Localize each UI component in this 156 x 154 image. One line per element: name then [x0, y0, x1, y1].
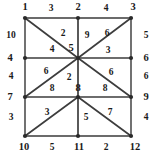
node-dot-11 — [76, 134, 80, 138]
node-label-3: 3 — [130, 2, 135, 12]
node-label-1: 1 — [22, 2, 27, 12]
edge-weight-8-11: 5 — [84, 112, 89, 122]
node-dot-7 — [23, 95, 27, 99]
edge-weight-4-5: 4 — [50, 44, 55, 54]
edge-weight-1-2: 3 — [49, 3, 54, 13]
edge-weight-6-9: 6 — [144, 71, 149, 81]
edge-layer — [25, 18, 131, 136]
edge-weight-1-5: 2 — [61, 28, 66, 38]
node-dot-12 — [129, 134, 133, 138]
edge-weight-5-8: 2 — [67, 72, 72, 82]
node-dot-1 — [23, 16, 27, 20]
node-dot-8 — [76, 95, 80, 99]
edge-weight-5-6: 3 — [106, 45, 111, 55]
node-dot-4 — [23, 56, 27, 60]
edge-weight-1-4: 10 — [6, 30, 16, 40]
node-label-7: 7 — [7, 92, 12, 102]
node-label-6: 6 — [143, 53, 148, 63]
node-label-8: 8 — [75, 83, 80, 93]
node-label-12: 12 — [130, 142, 141, 152]
edge-weight-4-7: 4 — [9, 71, 14, 81]
node-label-9: 9 — [143, 92, 148, 102]
edge-weight-3-6: 5 — [144, 30, 149, 40]
edge-weight-11-12: 2 — [104, 142, 109, 152]
node-dot-9 — [129, 95, 133, 99]
node-label-4: 4 — [7, 53, 12, 63]
node-label-5: 5 — [68, 43, 73, 53]
edge-weight-8-9: 8 — [103, 83, 108, 93]
edge-weight-10-8: 3 — [45, 107, 50, 117]
edge-weight-7-8: 8 — [50, 83, 55, 93]
graph-diagram: 344388521043925564266637123456789101112 — [0, 0, 156, 154]
edge-weight-7-10: 3 — [9, 112, 14, 122]
node-dot-6 — [129, 56, 133, 60]
edge-10-8 — [25, 97, 78, 136]
node-dot-3 — [129, 16, 133, 20]
edge-weight-9-12: 4 — [144, 112, 149, 122]
node-label-11: 11 — [74, 142, 84, 152]
edge-weight-5-9: 6 — [109, 67, 114, 77]
node-dot-2 — [76, 16, 80, 20]
edge-weight-10-11: 5 — [50, 142, 55, 152]
edge-weight-7-5: 6 — [44, 66, 49, 76]
edge-weight-2-5: 9 — [85, 30, 90, 40]
node-dot-10 — [23, 134, 27, 138]
edge-weight-2-3: 4 — [104, 3, 109, 13]
edge-weight-8-12: 7 — [108, 107, 113, 117]
node-label-10: 10 — [19, 142, 30, 152]
node-label-2: 2 — [75, 2, 80, 12]
node-dot-5 — [76, 56, 80, 60]
edge-weight-3-5: 6 — [105, 28, 110, 38]
graph-canvas — [0, 0, 156, 154]
